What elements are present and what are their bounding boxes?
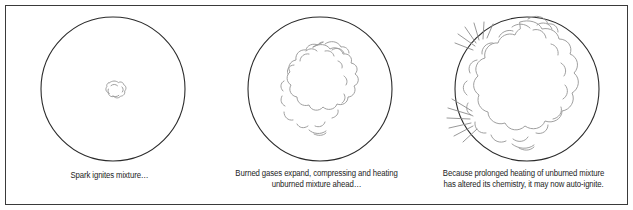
panel-1-caption: Spark ignites mixture… (13, 170, 206, 181)
panel-3-caption: Because prolonged heating of unburned mi… (427, 168, 620, 190)
cylinder-diagram-2 (213, 6, 420, 166)
cylinder-diagram-3 (420, 6, 627, 166)
panel-flame-propagation: Burned gases expand, compressing and hea… (213, 6, 420, 204)
cylinder-bore-outline (248, 17, 392, 161)
panel-2-caption: Burned gases expand, compressing and hea… (220, 168, 413, 190)
panel-3-illustration (420, 6, 627, 166)
cylinder-diagram-1 (6, 6, 213, 166)
panel-2-illustration (213, 6, 420, 166)
panel-spark-ignition: Spark ignites mixture… (6, 6, 213, 204)
panel-1-illustration (6, 6, 213, 166)
cylinder-bore-outline (41, 17, 185, 161)
panel-end-gas-autoignition: Because prolonged heating of unburned mi… (420, 6, 627, 204)
cylinder-bore-outline (455, 17, 599, 161)
combustion-sequence-figure: Spark ignites mixture… (0, 0, 633, 210)
panel-row: Spark ignites mixture… (6, 6, 627, 204)
